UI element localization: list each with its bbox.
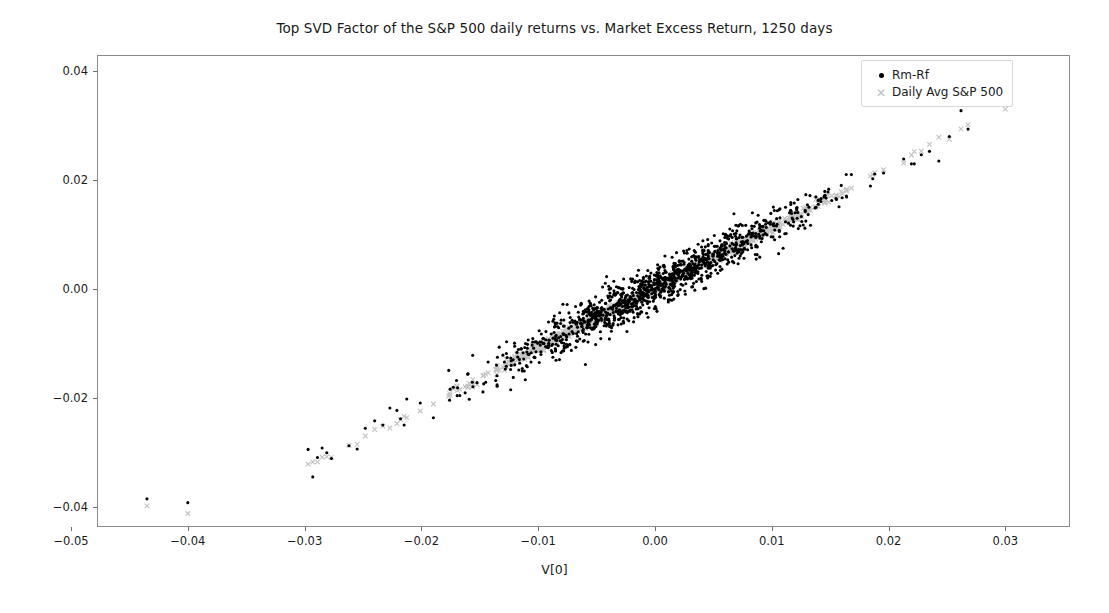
cross-marker-icon: ✕ — [870, 82, 892, 101]
x-tick-label: −0.01 — [521, 534, 556, 548]
chart-title: Top SVD Factor of the S&P 500 daily retu… — [0, 20, 1109, 36]
legend-label-rm-rf: Rm-Rf — [892, 68, 929, 82]
x-tick-label: −0.03 — [287, 534, 322, 548]
y-tick-mark — [93, 71, 97, 72]
scatter-chart-figure: Top SVD Factor of the S&P 500 daily retu… — [0, 0, 1109, 613]
y-tick-mark — [93, 507, 97, 508]
legend-label-daily-avg: Daily Avg S&P 500 — [892, 85, 1003, 99]
y-tick-mark — [93, 289, 97, 290]
x-tick-label: −0.05 — [53, 534, 88, 548]
x-tick-label: −0.04 — [170, 534, 205, 548]
x-tick-mark — [305, 527, 306, 531]
x-tick-label: 0.01 — [759, 534, 785, 548]
x-tick-label: −0.02 — [404, 534, 439, 548]
x-tick-mark — [71, 527, 72, 531]
x-tick-label: 0.00 — [642, 534, 668, 548]
x-tick-mark — [772, 527, 773, 531]
x-tick-mark — [188, 527, 189, 531]
y-tick-label: 0.02 — [62, 173, 88, 187]
x-tick-mark — [1005, 527, 1006, 531]
y-tick-label: −0.02 — [53, 391, 88, 405]
chart-legend: Rm-Rf ✕ Daily Avg S&P 500 — [861, 60, 1013, 107]
y-tick-label: 0.04 — [62, 64, 88, 78]
y-tick-label: 0.00 — [62, 282, 88, 296]
x-tick-label: 0.02 — [876, 534, 902, 548]
plot-area — [97, 55, 1070, 527]
x-tick-mark — [655, 527, 656, 531]
legend-item-daily-avg: ✕ Daily Avg S&P 500 — [870, 83, 1003, 100]
y-tick-mark — [93, 180, 97, 181]
scatter-plot-canvas — [98, 56, 1069, 526]
x-tick-mark — [421, 527, 422, 531]
x-tick-label: 0.03 — [993, 534, 1019, 548]
y-tick-label: −0.04 — [53, 500, 88, 514]
x-axis-label: V[0] — [0, 562, 1109, 577]
y-tick-mark — [93, 398, 97, 399]
x-tick-mark — [538, 527, 539, 531]
x-tick-mark — [889, 527, 890, 531]
legend-item-rm-rf: Rm-Rf — [870, 66, 1003, 83]
